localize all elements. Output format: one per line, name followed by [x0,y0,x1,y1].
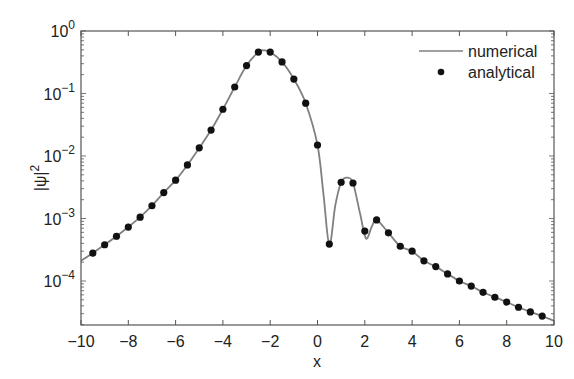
x-tick-labels: −10−8−6−4−20246810 [67,333,563,350]
y-tick-label: 10−2 [44,143,76,165]
x-tick-label: 10 [545,333,563,350]
analytical-data-point [503,298,510,305]
analytical-data-point [267,48,274,55]
analytical-data-point [207,126,214,133]
analytical-data-point [338,179,345,186]
legend-dot-icon [438,69,445,76]
analytical-data-point [468,282,475,289]
analytical-data-point [89,249,96,256]
x-tick-label: 2 [360,333,369,350]
analytical-data-point [349,179,356,186]
analytical-data-point [184,161,191,168]
analytical-data-point [444,270,451,277]
analytical-data-point [397,243,404,250]
analytical-data-point [255,48,262,55]
y-axis-label: |ψ|2 [28,164,49,191]
analytical-data-point [326,240,333,247]
analytical-data-point [160,189,167,196]
analytical-data-point [539,312,546,319]
svg-text:|ψ|2: |ψ|2 [28,164,49,191]
legend: numerical analytical [419,43,537,81]
x-tick-label: −4 [214,333,232,350]
analytical-data-point [231,83,238,90]
analytical-data-point [148,202,155,209]
analytical-data-point [172,177,179,184]
y-axis-label-base: |ψ| [32,171,49,191]
y-tick-labels: 10010−110−210−310−4 [44,18,76,290]
analytical-data-point [527,308,534,315]
analytical-data-point [219,106,226,113]
y-tick-label: 10−3 [44,206,76,228]
x-tick-label: 4 [408,333,417,350]
analytical-data-point [432,263,439,270]
x-tick-label: 0 [313,333,322,350]
analytical-data-point [314,141,321,148]
y-tick-label: 10−4 [44,268,76,290]
analytical-data-point [373,216,380,223]
analytical-data-point [420,257,427,264]
analytical-data-point [196,144,203,151]
numerical-series-line [81,50,554,321]
y-tick-label: 100 [51,18,76,40]
analytical-data-point [137,214,144,221]
x-tick-label: 8 [502,333,511,350]
x-tick-label: −6 [166,333,184,350]
analytical-data-point [361,227,368,234]
analytical-data-point [479,289,486,296]
legend-label-analytical: analytical [468,64,535,81]
x-tick-label: −8 [119,333,137,350]
analytical-data-point [456,277,463,284]
analytical-data-point [515,304,522,311]
analytical-data-point [278,58,285,65]
analytical-data-point [491,294,498,301]
x-tick-label: −10 [67,333,94,350]
analytical-data-point [409,248,416,255]
analytical-data-point [290,75,297,82]
analytical-data-point [243,62,250,69]
x-tick-label: 6 [455,333,464,350]
chart: −10−8−6−4−20246810 10010−110−210−310−4 x… [0,0,574,379]
plot-area [81,48,554,320]
analytical-data-point [125,223,132,230]
analytical-data-point [113,233,120,240]
x-axis-label: x [313,353,321,370]
x-tick-label: −2 [261,333,279,350]
legend-label-numerical: numerical [468,43,537,60]
y-tick-label: 10−1 [44,81,76,103]
analytical-data-point [385,229,392,236]
analytical-data-point [101,241,108,248]
y-axis-label-exp: 2 [28,164,42,171]
analytical-data-point [302,100,309,107]
